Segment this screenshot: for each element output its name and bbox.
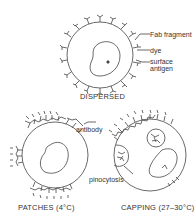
caption-patches: PATCHES (4°C) — [18, 203, 75, 212]
label-surface: surface — [150, 58, 173, 65]
label-dye: dye — [150, 47, 161, 54]
dispersed-cell — [60, 15, 150, 95]
label-antigen: antigen — [150, 65, 173, 72]
fab-fragments — [60, 15, 141, 95]
caption-dispersed: DISPERSED — [80, 92, 125, 101]
patches-cell — [10, 111, 96, 199]
caption-capping: CAPPING (27–30°C) — [121, 203, 195, 212]
label-pinocytosis: pinocytosis — [89, 176, 124, 183]
label-antibody: antibody — [76, 126, 102, 133]
label-fab-fragment: Fab fragment — [150, 31, 192, 38]
